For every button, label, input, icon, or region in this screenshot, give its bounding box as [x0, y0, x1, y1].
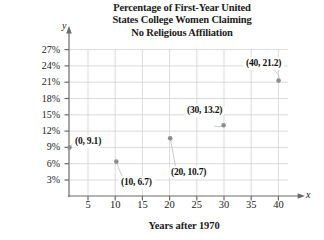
- x-tick-label-20: 20: [157, 199, 183, 210]
- point-label-20: (20, 10.7): [168, 166, 209, 179]
- plot-area: 3% 6% 9% 12% 15% 18% 21% 24% 27% 5 10 15…: [0, 0, 324, 240]
- y-axis-variable-label: y: [62, 20, 66, 31]
- x-tick-label-10: 10: [102, 199, 128, 210]
- x-tick-label-15: 15: [129, 199, 155, 210]
- point-label-40: (40, 21.2): [243, 57, 284, 70]
- scatter-plot-figure: Percentage of First-Year United States C…: [0, 0, 324, 240]
- x-axis-title: Years after 1970: [104, 220, 264, 231]
- x-tick-label-30: 30: [211, 199, 237, 210]
- x-axis-variable-label: x: [306, 189, 310, 200]
- point-label-10: (10, 6.7): [118, 176, 155, 189]
- point-label-30: (30, 13.2): [184, 104, 225, 117]
- x-tick-label-25: 25: [184, 199, 210, 210]
- point-label-0: (0, 9.1): [72, 135, 104, 148]
- x-axis-tick-labels: 5 10 15 20 25 30 35 40: [0, 0, 324, 240]
- x-tick-label-40: 40: [265, 199, 291, 210]
- x-tick-label-35: 35: [238, 199, 264, 210]
- x-tick-label-5: 5: [75, 199, 101, 210]
